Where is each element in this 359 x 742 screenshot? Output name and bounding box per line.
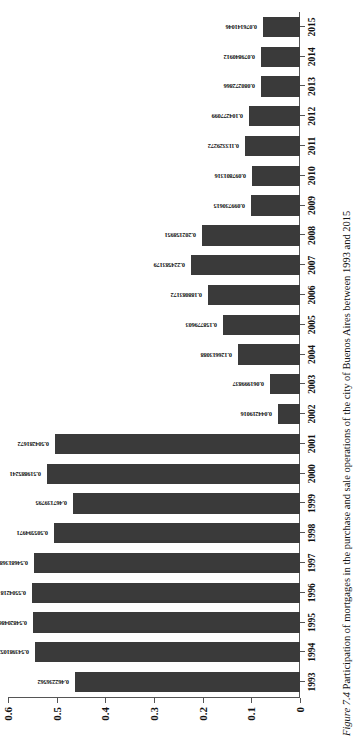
bar: 0.5504218 [32,583,300,603]
bar-value-label: 0.113329272 [208,143,239,150]
category-axis-tick-label: 2008 [307,226,317,245]
bar: 0.113329272 [245,136,300,156]
bar-column: 0.0761410462015 [8,12,300,42]
bar: 0.519885241 [47,464,300,484]
category-axis-tick-label: 2009 [307,196,317,215]
category-axis-tick-label: 2013 [307,77,317,96]
category-axis-tick [300,562,305,563]
category-axis-tick [300,681,305,682]
category-axis-tick [300,443,305,444]
bar: 0.080272866 [261,76,300,96]
category-axis-tick [300,532,305,533]
category-axis-tick-label: 1996 [307,583,317,602]
bar-value-label: 0.548204864 [0,619,27,626]
value-axis-tick: 0.2 [203,698,204,703]
bar-series: 0.46223656219930.54398105219940.54820486… [8,12,300,697]
bar: 0.462236562 [75,672,300,692]
bar-column: 0.4671397951999 [8,489,300,519]
bar-value-label: 0.467139795 [35,500,66,507]
category-axis-tick-label: 2007 [307,256,317,275]
bar: 0.061999837 [270,374,300,394]
rotated-figure-page: 0.60.50.40.30.20.10 0.46223656219930.543… [0,0,359,742]
bar-value-label: 0.126613088 [201,351,232,358]
bar: 0.188083172 [208,285,300,305]
category-axis-tick-label: 2010 [307,166,317,185]
category-axis-tick-label: 2000 [307,464,317,483]
bar-value-label: 0.504281672 [17,440,48,447]
bar-value-label: 0.505594971 [17,530,48,537]
bar: 0.079840912 [261,47,300,67]
category-axis-tick-label: 1998 [307,524,317,543]
value-axis-tick-label: 0.1 [245,707,257,721]
value-axis-tick-label: 0.2 [197,707,209,721]
category-axis-tick-label: 2006 [307,285,317,304]
bar: 0.044219016 [278,404,300,424]
bar: 0.158779603 [223,315,300,335]
category-axis-tick-label: 2001 [307,434,317,453]
bar-column: 0.0978013162010 [8,161,300,191]
bar-chart-plot-area: 0.60.50.40.30.20.10 0.46223656219930.543… [8,12,300,698]
category-axis-tick-label: 2004 [307,345,317,364]
bar-column: 0.4622365621993 [8,667,300,697]
bar-column: 0.5055949711998 [8,518,300,548]
bar: 0.097801316 [252,166,300,186]
bar-column: 0.1880831722006 [8,280,300,310]
value-axis-tick: 0.4 [105,698,106,703]
bar: 0.546813687 [34,553,300,573]
category-axis-tick-label: 1997 [307,553,317,572]
bar: 0.467139795 [73,493,300,513]
category-axis-tick [300,502,305,503]
bar-column: 0.5439810521994 [8,637,300,667]
figure-caption-label: Figure 7.4 [341,692,352,736]
bar-value-label: 0.5504218 [1,589,26,596]
bar-column: 0.1587796032005 [8,310,300,340]
bar: 0.543981052 [35,642,300,662]
category-axis-tick-label: 1999 [307,494,317,513]
category-axis-tick [300,56,305,57]
value-axis-tick-label: 0.5 [51,707,63,721]
category-axis-tick-label: 2015 [307,17,317,36]
bar-column: 0.0619998372003 [8,369,300,399]
category-axis-tick [300,354,305,355]
category-axis-tick [300,205,305,206]
category-axis-tick-label: 2012 [307,107,317,126]
category-axis-tick [300,592,305,593]
bar-column: 0.5468136871997 [8,548,300,578]
bar-value-label: 0.224583179 [153,262,184,269]
category-axis-tick-label: 2003 [307,375,317,394]
category-axis-tick [300,145,305,146]
bar-value-label: 0.061999837 [232,381,263,388]
category-axis-tick-label: 2011 [307,137,317,155]
category-axis-tick [300,26,305,27]
bar-column: 0.5198852412000 [8,459,300,489]
bar-column: 0.0798409122014 [8,42,300,72]
bar: 0.202158951 [202,225,300,245]
bar-value-label: 0.097801316 [215,172,246,179]
bar: 0.505594971 [54,523,300,543]
category-axis-tick-label: 1995 [307,613,317,632]
category-axis-tick [300,324,305,325]
category-axis-tick [300,294,305,295]
bar-column: 0.0442190162002 [8,399,300,429]
bar-value-label: 0.044219016 [241,411,272,418]
bar-value-label: 0.202158951 [164,232,195,239]
category-axis-tick [300,175,305,176]
bar: 0.224583179 [191,255,300,275]
bar-column: 0.1133292722011 [8,131,300,161]
bar: 0.104277099 [249,106,300,126]
category-axis-tick [300,651,305,652]
category-axis-tick-label: 2005 [307,315,317,334]
bar-column: 0.2245831792007 [8,250,300,280]
figure-caption: Figure 7.4 Participation of mortgages in… [341,6,353,736]
bar-column: 0.5042816722001 [8,429,300,459]
value-axis-tick-label: 0.4 [99,707,111,721]
bar-value-label: 0.543981052 [0,649,29,656]
bar: 0.548204864 [33,612,300,632]
bar-column: 0.0997306152009 [8,191,300,221]
bar-value-label: 0.076141046 [226,23,257,30]
category-axis-tick [300,264,305,265]
category-axis-tick [300,622,305,623]
category-axis-tick-label: 2014 [307,47,317,66]
figure-caption-text: Participation of mortgages in the purcha… [341,211,352,690]
category-axis-tick [300,234,305,235]
